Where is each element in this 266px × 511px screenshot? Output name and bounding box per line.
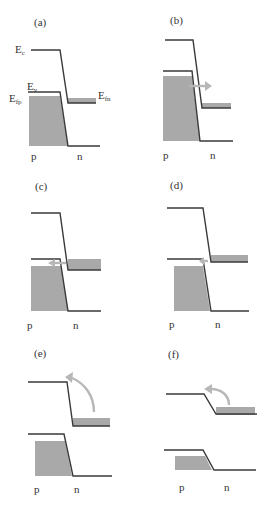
arrow-head-icon: [48, 259, 55, 267]
arrow-head-icon: [204, 384, 212, 394]
conduction-band-edge: [31, 50, 96, 103]
n-filled-states: [202, 103, 231, 108]
panel-label-e: (e): [34, 347, 47, 360]
conduction-band-edge: [167, 208, 248, 262]
n-region-label: n: [210, 149, 216, 161]
label-Ev: Ev: [27, 80, 38, 94]
panel-label-f: (f): [168, 348, 179, 361]
n-region-label: n: [74, 483, 80, 495]
label-Efp: Efp: [9, 92, 22, 106]
panel-f: (f) p n: [164, 348, 257, 493]
panel-b: (b) p n: [163, 14, 233, 161]
panel-label-b: (b): [170, 14, 183, 27]
n-region-label: n: [77, 150, 83, 162]
p-region-label: p: [179, 481, 185, 493]
n-region-label: n: [224, 481, 230, 493]
n-filled-states: [211, 255, 248, 262]
n-region-label: n: [73, 319, 79, 331]
p-region-label: p: [27, 319, 33, 331]
arrow-head-icon: [205, 81, 212, 91]
arrow-head-icon: [199, 257, 204, 265]
label-Efn: Efn: [98, 89, 111, 103]
panel-label-d: (d): [170, 179, 183, 192]
injection-arrow: [72, 378, 94, 412]
panel-label-a: (a): [34, 16, 47, 29]
n-filled-states: [68, 259, 101, 270]
panel-d: (d) p n: [167, 179, 249, 330]
panel-c: (c) p n: [27, 180, 101, 331]
panel-e: (e) p n: [28, 347, 112, 495]
band-diagram-figure: (a) Ec Ev Efp Efn p n (b) p n (c): [0, 0, 266, 511]
p-region-label: p: [31, 150, 37, 162]
p-region-label: p: [163, 149, 169, 161]
panel-a: (a) Ec Ev Efp Efn p n: [9, 16, 111, 162]
label-Ec: Ec: [15, 43, 25, 57]
n-filled-states: [67, 98, 96, 103]
p-filled-states: [175, 456, 212, 470]
p-region-label: p: [34, 483, 40, 495]
p-region-label: p: [169, 318, 175, 330]
n-filled-states: [73, 418, 110, 426]
panel-label-c: (c): [35, 180, 48, 193]
n-region-label: n: [215, 318, 221, 330]
diffusion-arrow: [211, 389, 229, 405]
